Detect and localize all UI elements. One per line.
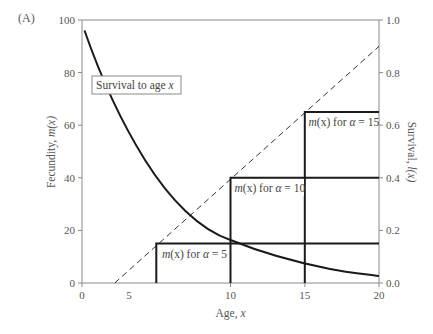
y-left-axis: [78, 20, 82, 283]
y-left-tick-labels: 100 80 60 40 20 0: [59, 14, 76, 289]
step-alpha-15: [305, 112, 379, 283]
x-axis: [82, 283, 379, 287]
y-right-axis: [379, 20, 383, 283]
svg-text:15: 15: [299, 289, 311, 301]
label-alpha-15: m(x) for α = 15: [306, 113, 379, 130]
svg-text:0: 0: [70, 277, 76, 289]
label-alpha-10: m(x) for α = 10: [232, 179, 305, 196]
svg-text:Survival to age x: Survival to age x: [96, 79, 175, 92]
svg-text:0.2: 0.2: [386, 224, 400, 236]
svg-text:10: 10: [225, 289, 237, 301]
svg-text:0.6: 0.6: [386, 119, 400, 131]
svg-text:100: 100: [59, 14, 76, 26]
svg-text:60: 60: [64, 119, 76, 131]
x-tick-labels: 0 5 10 15 20: [79, 289, 385, 301]
svg-text:0.0: 0.0: [386, 277, 400, 289]
y-left-axis-title: Fecundity, m(x): [45, 116, 58, 188]
svg-text:80: 80: [64, 67, 76, 79]
svg-text:20: 20: [374, 289, 386, 301]
svg-text:20: 20: [64, 224, 76, 236]
y-right-tick-labels: 1.0 0.8 0.6 0.4 0.2 0.0: [386, 14, 400, 289]
svg-text:0.8: 0.8: [386, 67, 400, 79]
survival-fecundity-chart: (A) 100 80 60 40 20 0 1.0 0.8 0.6 0.4: [0, 0, 433, 334]
svg-text:0.4: 0.4: [386, 172, 400, 184]
svg-text:m(x) for α = 15: m(x) for α = 15: [309, 116, 380, 129]
x-axis-title: Age, x: [215, 307, 246, 320]
panel-label: (A): [18, 11, 35, 25]
survival-curve: [85, 31, 380, 277]
svg-text:5: 5: [126, 289, 132, 301]
label-alpha-5: m(x) for α = 5: [162, 248, 227, 261]
svg-text:1.0: 1.0: [386, 14, 400, 26]
svg-text:m(x) for α = 10: m(x) for α = 10: [235, 182, 306, 195]
svg-text:0: 0: [79, 289, 85, 301]
svg-text:40: 40: [64, 172, 76, 184]
survival-label-box: Survival to age x: [92, 76, 181, 94]
y-right-axis-title: Survival, l(x): [405, 122, 418, 183]
